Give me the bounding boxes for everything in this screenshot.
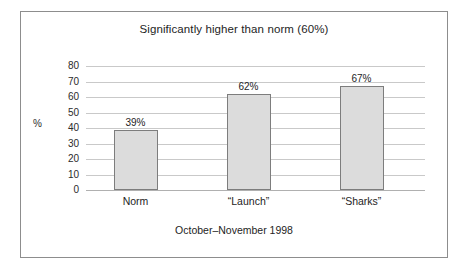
x-axis-category-label: Norm [123, 196, 149, 207]
bar: 67%“Sharks” [340, 86, 384, 190]
y-axis-tick-label: 10 [68, 170, 79, 180]
y-axis-tick-label: 30 [68, 139, 79, 149]
y-axis-title: % [33, 119, 42, 129]
bar: 39%Norm [114, 130, 158, 190]
chart-subtitle: October–November 1998 [20, 224, 448, 236]
plot-area: 8070605040302010039%Norm62%“Launch”67%“S… [86, 66, 425, 190]
bar: 62%“Launch” [227, 94, 271, 190]
figure-container: Significantly higher than norm (60%) % 8… [0, 0, 466, 276]
y-axis-tick-label: 60 [68, 92, 79, 102]
y-axis-tick-label: 50 [68, 108, 79, 118]
bar-value-label: 62% [238, 82, 258, 92]
x-axis-category-label: “Sharks” [342, 196, 382, 207]
y-axis-tick-label: 40 [68, 123, 79, 133]
y-axis-tick-label: 20 [68, 154, 79, 164]
y-axis-tick-label: 80 [68, 61, 79, 71]
x-axis-category-label: “Launch” [228, 196, 269, 207]
bar-value-label: 39% [125, 118, 145, 128]
bar-value-label: 67% [351, 74, 371, 84]
gridline: 0 [86, 190, 425, 191]
y-axis-tick-label: 70 [68, 77, 79, 87]
y-axis-tick-label: 0 [73, 185, 79, 195]
gridline: 80 [86, 66, 425, 67]
chart-title: Significantly higher than norm (60%) [20, 23, 448, 35]
